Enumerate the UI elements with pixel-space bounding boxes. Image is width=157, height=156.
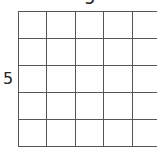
grid-cell — [47, 93, 75, 120]
grid-cell — [133, 66, 157, 93]
grid-5x5 — [18, 11, 157, 147]
grid-cell — [76, 39, 104, 66]
column-count-label: 5 — [80, 0, 100, 7]
grid-cell — [104, 120, 132, 147]
grid-cell — [47, 39, 75, 66]
grid-cell — [76, 66, 104, 93]
grid-cell — [47, 12, 75, 39]
row-count-label: 5 — [3, 71, 13, 87]
grid-cell — [133, 39, 157, 66]
grid-cell — [19, 93, 47, 120]
grid-cell — [19, 39, 47, 66]
grid-cell — [104, 66, 132, 93]
grid-cell — [19, 66, 47, 93]
grid-cell — [76, 12, 104, 39]
grid-cell — [76, 93, 104, 120]
grid-cell — [104, 93, 132, 120]
grid-cell — [133, 93, 157, 120]
grid-cell — [47, 120, 75, 147]
grid-cell — [104, 12, 132, 39]
grid-cell — [76, 120, 104, 147]
grid-cell — [133, 120, 157, 147]
grid-cell — [19, 12, 47, 39]
grid-cell — [104, 39, 132, 66]
grid-cell — [133, 12, 157, 39]
grid-cell — [19, 120, 47, 147]
grid-cell — [47, 66, 75, 93]
